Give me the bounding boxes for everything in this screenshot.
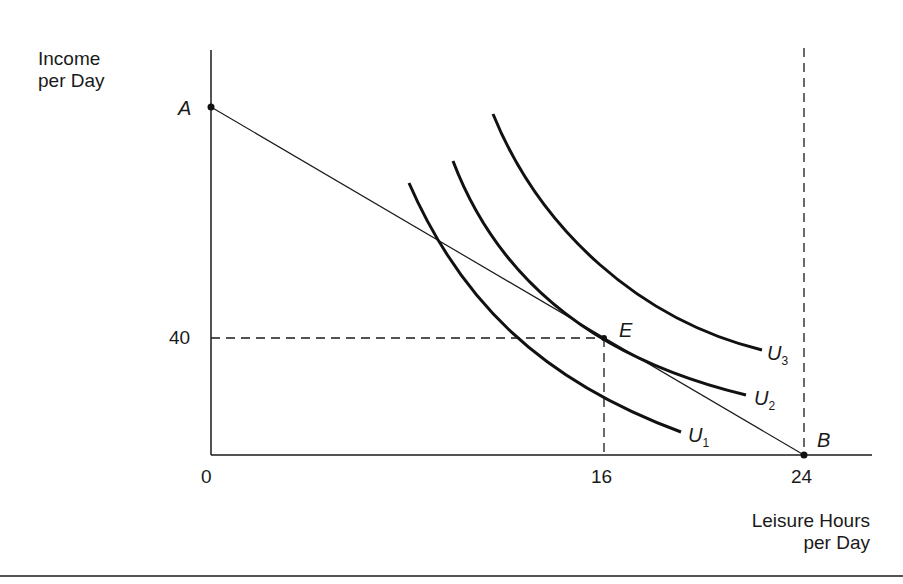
x-axis-title-line1: Leisure Hours <box>720 510 870 532</box>
y-axis-title-line2: per Day <box>38 70 105 92</box>
x-tick-24: 24 <box>791 466 812 488</box>
u1-label-main: U <box>688 424 702 446</box>
point-b-marker <box>801 452 808 459</box>
indifference-curve-u1 <box>409 183 681 432</box>
y-axis-title-line1: Income <box>38 48 105 70</box>
x-axis-title: Leisure Hours per Day <box>720 510 870 554</box>
indifference-curve-u2 <box>453 161 746 395</box>
u1-label: U1 <box>688 424 709 454</box>
u3-label: U3 <box>767 342 788 372</box>
u3-label-sub: 3 <box>781 354 788 368</box>
point-b-label: B <box>817 429 830 451</box>
x-tick-0: 0 <box>201 466 212 488</box>
indifference-curve-u3 <box>493 114 762 350</box>
budget-line-ab <box>211 107 804 455</box>
y-tick-40: 40 <box>169 327 190 349</box>
u2-label: U2 <box>754 387 775 417</box>
point-e-marker <box>601 335 607 341</box>
point-e-label: E <box>619 319 632 341</box>
point-a-marker <box>208 104 215 111</box>
y-axis-title: Income per Day <box>38 48 105 92</box>
point-a-label: A <box>178 97 191 119</box>
x-axis-title-line2: per Day <box>720 532 870 554</box>
chart-canvas <box>0 0 903 584</box>
x-tick-16: 16 <box>591 466 612 488</box>
u2-label-sub: 2 <box>768 399 775 413</box>
u1-label-sub: 1 <box>702 436 709 450</box>
u2-label-main: U <box>754 387 768 409</box>
u3-label-main: U <box>767 342 781 364</box>
